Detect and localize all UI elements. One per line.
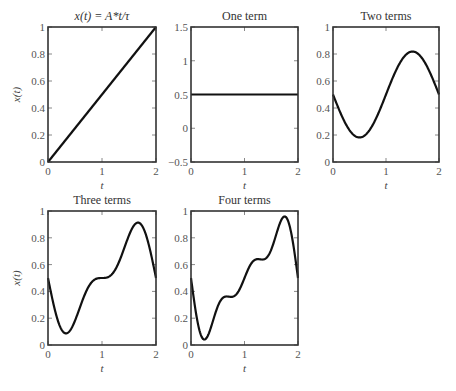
y-tick-label: 0.2 bbox=[316, 129, 330, 141]
y-tick-label: 0 bbox=[40, 339, 46, 351]
subplot-2: One term012−0.500.511.5t bbox=[168, 9, 301, 191]
y-tick-label: −0.5 bbox=[168, 156, 188, 168]
x-tick-label: 2 bbox=[295, 165, 301, 177]
y-tick-label: 0.6 bbox=[31, 259, 45, 271]
series-line bbox=[48, 27, 156, 162]
subplot-title: Four terms bbox=[218, 193, 271, 207]
x-tick-label: 0 bbox=[45, 348, 51, 360]
y-tick-label: 0 bbox=[183, 339, 189, 351]
x-tick-label: 1 bbox=[99, 165, 105, 177]
series-line bbox=[333, 52, 439, 138]
y-tick-label: 0 bbox=[183, 122, 189, 134]
x-tick-label: 1 bbox=[99, 348, 105, 360]
x-axis-label: t bbox=[243, 179, 247, 191]
y-tick-label: 0.4 bbox=[31, 102, 45, 114]
y-tick-label: 0 bbox=[325, 156, 331, 168]
x-tick-label: 0 bbox=[330, 165, 336, 177]
y-tick-label: 0.8 bbox=[31, 48, 45, 60]
y-tick-label: 0.2 bbox=[174, 312, 188, 324]
series-line bbox=[48, 223, 156, 334]
subplot-3: Two terms01200.20.40.60.81t bbox=[316, 9, 442, 191]
y-tick-label: 0.4 bbox=[316, 102, 330, 114]
x-tick-label: 2 bbox=[295, 348, 301, 360]
subplot-title: Three terms bbox=[73, 193, 131, 207]
y-tick-label: 0.2 bbox=[31, 312, 45, 324]
y-tick-label: 1 bbox=[183, 205, 189, 217]
x-tick-label: 0 bbox=[188, 165, 194, 177]
y-tick-label: 1 bbox=[40, 205, 46, 217]
y-tick-label: 0.6 bbox=[31, 75, 45, 87]
y-axis-label: x(t) bbox=[10, 87, 23, 104]
x-tick-label: 2 bbox=[153, 165, 159, 177]
y-tick-label: 0.2 bbox=[31, 129, 45, 141]
series-line bbox=[191, 216, 298, 339]
x-axis-label: t bbox=[100, 362, 104, 374]
subplot-title: x(t) = A*t/τ bbox=[74, 9, 131, 23]
y-tick-label: 1 bbox=[325, 21, 331, 33]
x-tick-label: 1 bbox=[383, 165, 389, 177]
x-tick-label: 0 bbox=[188, 348, 194, 360]
subplot-title: One term bbox=[222, 9, 268, 23]
y-tick-label: 1 bbox=[40, 21, 46, 33]
subplot-title: Two terms bbox=[361, 9, 412, 23]
y-tick-label: 0.8 bbox=[174, 232, 188, 244]
subplot-5: Four terms01200.20.40.60.81t bbox=[174, 193, 301, 374]
y-tick-label: 0.6 bbox=[316, 75, 330, 87]
x-tick-label: 2 bbox=[436, 165, 442, 177]
y-tick-label: 0.4 bbox=[174, 285, 188, 297]
y-tick-label: 1 bbox=[183, 55, 189, 67]
x-axis-label: t bbox=[384, 179, 388, 191]
subplot-4: Three terms01200.20.40.60.81tx(t) bbox=[10, 193, 159, 374]
y-tick-label: 0.6 bbox=[174, 259, 188, 271]
x-axis-label: t bbox=[100, 179, 104, 191]
y-axis-label: x(t) bbox=[10, 270, 23, 287]
y-tick-label: 0.4 bbox=[31, 285, 45, 297]
x-tick-label: 0 bbox=[45, 165, 51, 177]
x-tick-label: 1 bbox=[242, 348, 248, 360]
y-tick-label: 1.5 bbox=[174, 21, 188, 33]
x-tick-label: 1 bbox=[242, 165, 248, 177]
y-tick-label: 0.8 bbox=[316, 48, 330, 60]
x-tick-label: 2 bbox=[153, 348, 159, 360]
y-tick-label: 0 bbox=[40, 156, 46, 168]
subplot-1: x(t) = A*t/τ01200.20.40.60.81tx(t) bbox=[10, 9, 159, 191]
x-axis-label: t bbox=[243, 362, 247, 374]
y-tick-label: 0.5 bbox=[174, 89, 188, 101]
y-tick-label: 0.8 bbox=[31, 232, 45, 244]
figure: x(t) = A*t/τ01200.20.40.60.81tx(t)One te… bbox=[0, 0, 456, 391]
